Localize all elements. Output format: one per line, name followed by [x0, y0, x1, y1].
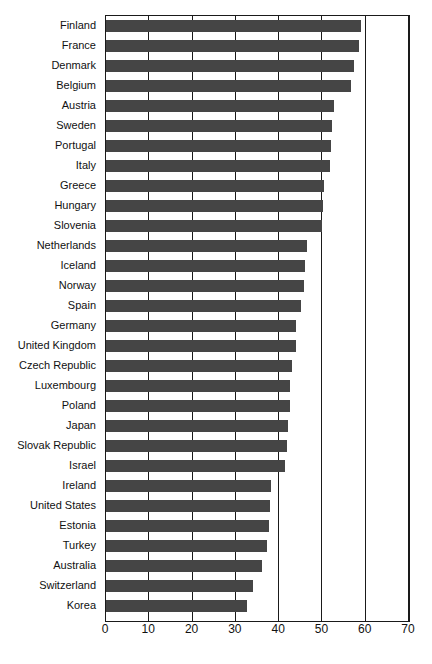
bar [106, 520, 269, 532]
bar-chart: FinlandFranceDenmarkBelgiumAustriaSweden… [0, 0, 432, 664]
bar [106, 360, 292, 372]
category-label: Poland [0, 399, 100, 411]
category-label: Norway [0, 279, 100, 291]
bar [106, 140, 331, 152]
category-label: Hungary [0, 199, 100, 211]
bar [106, 220, 322, 232]
gridline [365, 16, 366, 621]
x-tick-label: 40 [271, 622, 284, 636]
bar [106, 600, 247, 612]
bar [106, 340, 296, 352]
category-label: Israel [0, 459, 100, 471]
bar [106, 460, 285, 472]
category-label: Finland [0, 19, 100, 31]
plot-area [105, 15, 410, 622]
x-tick-label: 10 [142, 622, 155, 636]
category-label-column: FinlandFranceDenmarkBelgiumAustriaSweden… [0, 0, 100, 664]
category-label: Denmark [0, 59, 100, 71]
category-label: Czech Republic [0, 359, 100, 371]
bar [106, 540, 267, 552]
category-label: Turkey [0, 539, 100, 551]
bar [106, 240, 307, 252]
bar [106, 40, 359, 52]
bar [106, 420, 288, 432]
bar [106, 120, 332, 132]
bar [106, 280, 304, 292]
bar [106, 320, 296, 332]
category-label: Ireland [0, 479, 100, 491]
category-label: Spain [0, 299, 100, 311]
bar [106, 300, 301, 312]
bar [106, 260, 305, 272]
bar [106, 480, 271, 492]
gridline [408, 16, 409, 621]
bar [106, 500, 270, 512]
x-tick-label: 0 [102, 622, 109, 636]
bar [106, 100, 334, 112]
category-label: Switzerland [0, 579, 100, 591]
bar [106, 560, 262, 572]
category-label: Korea [0, 599, 100, 611]
bar [106, 60, 354, 72]
bar [106, 440, 287, 452]
x-tick-label: 30 [228, 622, 241, 636]
category-label: Slovenia [0, 219, 100, 231]
category-label: Luxembourg [0, 379, 100, 391]
category-label: Greece [0, 179, 100, 191]
category-label: Iceland [0, 259, 100, 271]
category-label: Japan [0, 419, 100, 431]
x-tick-label: 50 [315, 622, 328, 636]
bar [106, 180, 324, 192]
bar [106, 580, 253, 592]
bar [106, 80, 351, 92]
bar [106, 400, 290, 412]
x-tick-label: 20 [185, 622, 198, 636]
bar [106, 160, 330, 172]
bar [106, 380, 290, 392]
x-axis-ticks: 010203040506070 [105, 622, 408, 642]
bar [106, 20, 361, 32]
x-tick-label: 60 [358, 622, 371, 636]
bar [106, 200, 323, 212]
category-label: Portugal [0, 139, 100, 151]
category-label: Belgium [0, 79, 100, 91]
category-label: Estonia [0, 519, 100, 531]
category-label: Australia [0, 559, 100, 571]
category-label: Germany [0, 319, 100, 331]
category-label: France [0, 39, 100, 51]
x-tick-label: 70 [401, 622, 414, 636]
category-label: Slovak Republic [0, 439, 100, 451]
category-label: Netherlands [0, 239, 100, 251]
category-label: United Kingdom [0, 339, 100, 351]
category-label: Italy [0, 159, 100, 171]
category-label: Austria [0, 99, 100, 111]
category-label: Sweden [0, 119, 100, 131]
category-label: United States [0, 499, 100, 511]
